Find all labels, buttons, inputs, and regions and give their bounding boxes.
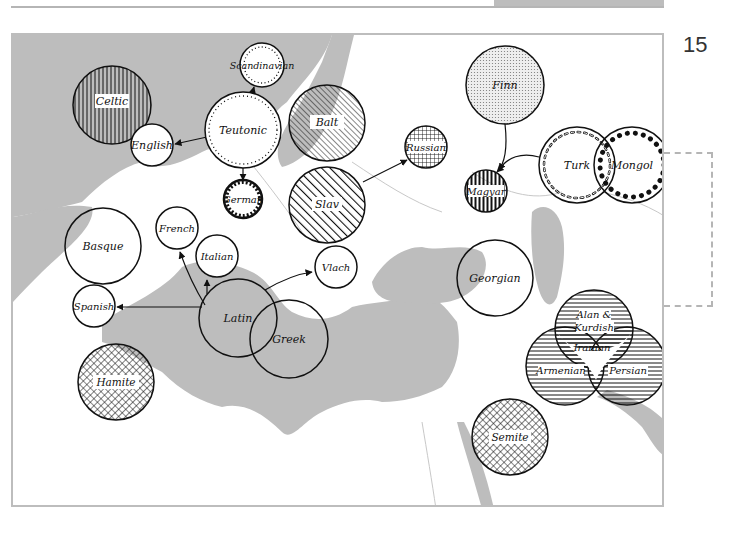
svg-text:Vlach: Vlach bbox=[322, 262, 350, 273]
circle-hamite: Hamite bbox=[78, 344, 154, 420]
previous-figure-fragment bbox=[494, 0, 664, 6]
svg-text:Spanish: Spanish bbox=[74, 301, 114, 312]
circle-balt: Balt bbox=[289, 85, 365, 161]
svg-text:Georgian: Georgian bbox=[469, 272, 520, 285]
svg-text:Scandinavian: Scandinavian bbox=[230, 60, 295, 71]
label-persian: Persian bbox=[608, 365, 647, 376]
page-number: 15 bbox=[683, 32, 707, 58]
circle-teutonic: Teutonic bbox=[205, 92, 281, 168]
svg-text:Russian: Russian bbox=[405, 142, 446, 153]
label-armenian: Armenian bbox=[535, 365, 585, 376]
svg-text:Italian: Italian bbox=[200, 251, 234, 262]
label-alan: Alan & bbox=[576, 309, 612, 320]
svg-text:Finn: Finn bbox=[491, 79, 517, 92]
previous-figure-edge bbox=[11, 0, 664, 8]
map-extension-dashed-border bbox=[664, 152, 713, 307]
svg-text:Latin: Latin bbox=[223, 312, 253, 325]
circle-italian: Italian bbox=[196, 235, 238, 277]
svg-text:Slav: Slav bbox=[315, 198, 340, 211]
label-kurdish: Kurdish bbox=[573, 322, 614, 333]
svg-text:English: English bbox=[130, 139, 173, 152]
svg-text:Hamite: Hamite bbox=[95, 376, 135, 388]
circle-english: English bbox=[130, 124, 173, 166]
circle-slav: Slav bbox=[289, 167, 365, 243]
svg-text:German: German bbox=[223, 194, 264, 205]
language-family-map: Celtic English Scandinavian Teutonic Ger… bbox=[13, 35, 664, 507]
circle-spanish: Spanish bbox=[73, 285, 115, 327]
circle-finn: Finn bbox=[466, 46, 544, 124]
svg-text:Teutonic: Teutonic bbox=[219, 124, 267, 137]
svg-text:Celtic: Celtic bbox=[96, 95, 129, 108]
map-frame: Celtic English Scandinavian Teutonic Ger… bbox=[11, 33, 664, 507]
svg-text:Magyar: Magyar bbox=[466, 186, 507, 197]
circle-french: French bbox=[156, 207, 198, 249]
svg-text:Semite: Semite bbox=[491, 431, 528, 443]
circle-magyar: Magyar bbox=[465, 170, 507, 212]
circle-semite: Semite bbox=[472, 399, 548, 475]
circle-russian: Russian bbox=[405, 126, 447, 168]
label-iranian: Iranian bbox=[573, 342, 611, 353]
svg-text:Basque: Basque bbox=[82, 240, 124, 253]
svg-text:Mongol: Mongol bbox=[610, 159, 654, 172]
circle-vlach: Vlach bbox=[315, 246, 357, 288]
svg-text:French: French bbox=[158, 223, 195, 234]
svg-text:Balt: Balt bbox=[315, 116, 339, 129]
svg-text:Greek: Greek bbox=[272, 333, 306, 346]
svg-text:Turk: Turk bbox=[564, 159, 591, 172]
circle-german: German bbox=[223, 180, 264, 218]
